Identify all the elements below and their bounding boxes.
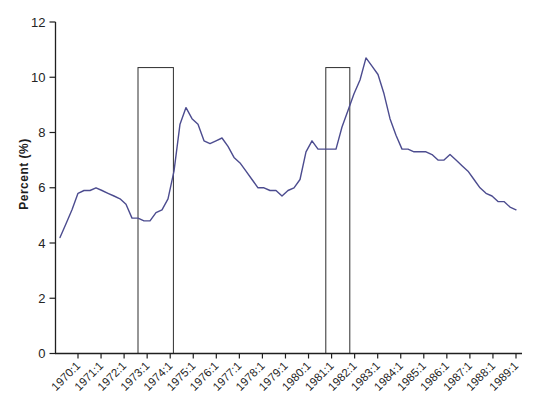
axes xyxy=(50,22,523,359)
y-tick-label: 6 xyxy=(38,180,45,195)
highlight-boxes xyxy=(138,68,350,354)
y-tick-label: 10 xyxy=(31,70,45,85)
y-tick-label: 0 xyxy=(38,346,45,361)
y-tick-label: 12 xyxy=(31,15,45,30)
y-tick-labels: 024681012 xyxy=(31,15,45,362)
data-series xyxy=(60,58,516,238)
chart-figure: Percent (%) 1970:11971:11972:11973:11974… xyxy=(0,0,534,407)
y-tick-label: 8 xyxy=(38,125,45,140)
line-chart-canvas: 1970:11971:11972:11973:11974:11975:11976… xyxy=(0,0,534,407)
highlight-box xyxy=(326,68,350,354)
y-axis-title: Percent (%) xyxy=(17,138,31,210)
y-tick-label: 4 xyxy=(38,236,45,251)
x-tick-labels: 1970:11971:11972:11973:11974:11975:11976… xyxy=(49,359,520,392)
data-polyline xyxy=(60,58,516,238)
highlight-box xyxy=(138,68,173,354)
y-tick-label: 2 xyxy=(38,291,45,306)
